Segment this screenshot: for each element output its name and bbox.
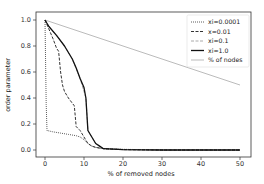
x-axis: 01020304050 xyxy=(43,157,244,168)
y-tick-label: 0.0 xyxy=(21,146,31,154)
y-axis: 0.00.20.40.60.81.0 xyxy=(21,16,36,154)
x-tick-label: 30 xyxy=(158,160,166,168)
legend-label: xi=0.0001 xyxy=(208,18,240,25)
legend-label: xi=0.1 xyxy=(208,37,228,44)
x-tick-label: 50 xyxy=(236,160,244,168)
x-axis-label: % of removed nodes xyxy=(107,170,175,178)
x-tick-label: 20 xyxy=(119,160,127,168)
legend-label: % of nodes xyxy=(208,56,242,63)
y-tick-label: 0.6 xyxy=(21,68,31,76)
legend-label: xi=1.0 xyxy=(208,47,228,54)
x-tick-label: 40 xyxy=(197,160,205,168)
y-tick-label: 1.0 xyxy=(21,16,31,24)
y-axis-label: order parameter xyxy=(4,58,12,112)
x-tick-label: 10 xyxy=(80,160,88,168)
chart: 0.00.20.40.60.81.0 01020304050 % of remo… xyxy=(0,0,264,184)
y-tick-label: 0.4 xyxy=(21,94,31,102)
legend-label: x=0.01 xyxy=(208,28,231,35)
x-tick-label: 0 xyxy=(43,160,47,168)
legend: xi=0.0001x=0.01xi=0.1xi=1.0% of nodes xyxy=(187,15,249,67)
y-tick-label: 0.8 xyxy=(21,42,31,50)
y-tick-label: 0.2 xyxy=(21,120,31,128)
